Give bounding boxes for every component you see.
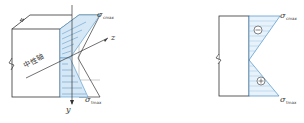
panel-3d-beam: 中性轴 z y σ cmax σ tmax: [9, 5, 116, 114]
y-axis-label: y: [65, 105, 71, 114]
sigma-cmax-subscript: cmax: [286, 16, 298, 21]
sigma-tmax-subscript: tmax: [286, 100, 297, 105]
sigma-tmax-subscript: tmax: [91, 100, 102, 105]
panel-stress-signs: σ cmax σ tmax: [216, 11, 298, 105]
stress-diagram: 中性轴 z y σ cmax σ tmax: [0, 0, 304, 123]
z-axis-label: z: [110, 33, 116, 42]
sigma-cmax-subscript: cmax: [103, 15, 115, 20]
